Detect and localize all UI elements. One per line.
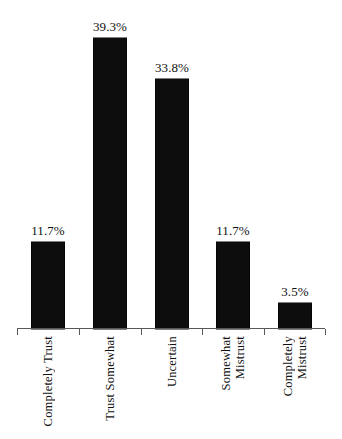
bar-value-label: 39.3% [93,20,127,34]
bar-completely-mistrust[interactable] [279,303,312,329]
x-axis-tick [264,329,265,335]
x-axis-tick [202,329,203,335]
x-axis-label-line: Mistrust [296,336,309,379]
bar-value-label: 3.5% [281,285,308,299]
bar-completely-trust[interactable] [32,242,65,329]
bar-somewhat-mistrust[interactable] [217,242,250,329]
x-axis-label-line: Trust Somewhat [104,336,117,421]
bar-value-label: 33.8% [155,61,189,75]
x-axis-label-line: Completely Trust [42,336,55,426]
bar-group-trust-somewhat: 39.3% [79,0,141,330]
x-axis-label-uncertain: Uncertain [141,336,203,439]
x-axis-label-line: Mistrust [234,336,247,379]
bar-group-somewhat-mistrust: 11.7% [202,0,264,330]
x-axis-label-somewhat-mistrust: Somewhat Mistrust [202,336,264,439]
x-axis-tick [141,329,142,335]
x-axis-tick [79,329,80,335]
x-axis-tick [325,329,326,335]
bar-group-uncertain: 33.8% [141,0,203,330]
bar-uncertain[interactable] [156,79,189,329]
bar-trust-somewhat[interactable] [94,38,127,329]
x-axis-label-completely-trust: Completely Trust [17,336,79,439]
x-axis-tick [17,329,18,335]
bar-group-completely-mistrust: 3.5% [264,0,326,330]
bar-value-label: 11.7% [31,224,65,238]
plot-area: 11.7% 39.3% 33.8% 11.7% 3.5% [0,0,342,330]
bar-group-completely-trust: 11.7% [17,0,79,330]
x-axis-label-trust-somewhat: Trust Somewhat [79,336,141,439]
x-axis-line [17,328,325,329]
x-axis-tick-labels: Completely Trust Trust Somewhat Uncertai… [0,336,342,439]
x-axis-label-line: Uncertain [166,336,179,387]
x-axis-label-completely-mistrust: Completely Mistrust [264,336,326,439]
x-axis-label-line: Completely [282,336,295,396]
bar-chart: 11.7% 39.3% 33.8% 11.7% 3.5% [0,0,342,439]
bar-value-label: 11.7% [216,224,250,238]
x-axis-label-line: Somewhat [220,336,233,390]
